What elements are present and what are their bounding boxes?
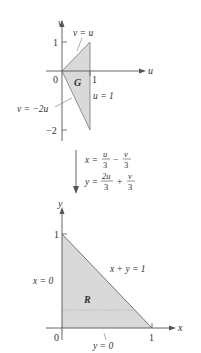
svg-text:u: u	[103, 149, 107, 159]
label-x-plus-y-eq-1: x + y = 1	[109, 264, 146, 274]
svg-text:3: 3	[104, 182, 108, 192]
tick-vm2: −2	[46, 125, 57, 136]
svg-text:v: v	[124, 149, 128, 159]
label-x-eq-0: x = 0	[32, 276, 53, 286]
x-axis-label: x	[177, 322, 183, 333]
tick-x1: 1	[149, 332, 154, 343]
tick-u1: 1	[92, 74, 97, 85]
label-v-eq-u: v = u	[73, 28, 93, 38]
u-axis-arrow	[139, 69, 146, 74]
tick-v1: 1	[53, 37, 58, 48]
origin-label: 0	[53, 74, 58, 85]
y-axis-label: y	[57, 198, 63, 209]
map-arrow-head	[73, 186, 79, 194]
tick-y1: 1	[54, 229, 59, 240]
svg-text:−: −	[113, 155, 118, 165]
origin-label: 0	[54, 332, 59, 343]
v-axis-label: v	[58, 17, 63, 28]
svg-text:y =: y =	[84, 177, 98, 187]
x-axis-arrow	[169, 326, 176, 331]
svg-text:+: +	[117, 177, 122, 187]
bottom-plot: y x 0 1 1 R x = 0 x + y = 1 y = 0	[32, 198, 183, 351]
label-v-eq-neg2u: v = −2u	[17, 104, 49, 114]
u-axis-label: u	[148, 65, 153, 76]
svg-text:v: v	[128, 171, 132, 181]
svg-text:3: 3	[124, 160, 128, 170]
svg-text:2u: 2u	[102, 171, 111, 181]
svg-text:3: 3	[103, 160, 107, 170]
region-r-label: R	[83, 294, 91, 305]
label-u-eq-1: u = 1	[93, 91, 114, 101]
diagram-canvas: v u 0 1 1 −2 G v = u u = 1 v = −2u x = u…	[0, 0, 201, 353]
region-g-label: G	[74, 77, 82, 88]
transform-mapping: x = u 3 − v 3 y = 2u 3 + v 3	[73, 149, 135, 194]
svg-text:x =: x =	[84, 155, 98, 165]
top-plot: v u 0 1 1 −2 G v = u u = 1 v = −2u	[17, 17, 153, 141]
label-y-eq-0: y = 0	[92, 341, 113, 351]
svg-text:3: 3	[128, 182, 132, 192]
